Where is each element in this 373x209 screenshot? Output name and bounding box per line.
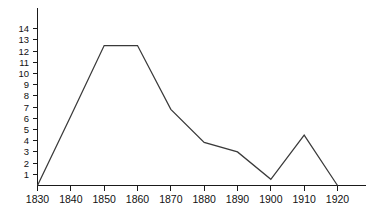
data-series-line [38,46,338,186]
x-axis-tick-labels: 1830184018501860187018801890190019101920 [26,193,350,205]
y-tick-label: 8 [24,90,29,101]
y-axis: 1234567891011121314 [18,8,37,186]
x-tick-label: 1840 [59,193,83,205]
y-tick-label: 14 [18,23,29,34]
y-axis-ticks [33,29,38,175]
y-tick-label: 12 [18,46,29,57]
x-tick-label: 1830 [26,193,50,205]
y-tick-label: 5 [24,124,29,135]
y-tick-label: 1 [24,169,29,180]
y-tick-label: 2 [24,158,29,169]
x-axis-ticks [38,186,338,191]
x-tick-label: 1890 [226,193,250,205]
x-tick-label: 1860 [126,193,150,205]
x-tick-label: 1920 [326,193,350,205]
x-tick-label: 1900 [259,193,283,205]
y-tick-label: 4 [24,135,29,146]
y-tick-label: 11 [19,57,29,68]
x-tick-label: 1870 [159,193,183,205]
x-axis: 1830184018501860187018801890190019101920 [26,186,366,205]
y-tick-label: 13 [18,34,29,45]
y-tick-label: 7 [24,102,29,113]
y-axis-tick-labels: 1234567891011121314 [18,23,29,180]
chart-plot-area: 1234567891011121314 18301840185018601870… [0,0,373,209]
x-tick-label: 1880 [192,193,216,205]
y-tick-label: 3 [24,146,29,157]
data-series-group [38,46,338,186]
y-tick-label: 9 [24,79,29,90]
y-tick-label: 10 [18,68,29,79]
y-tick-label: 6 [24,113,29,124]
x-tick-label: 1910 [292,193,316,205]
x-tick-label: 1850 [92,193,116,205]
line-chart: 1234567891011121314 18301840185018601870… [0,0,373,209]
